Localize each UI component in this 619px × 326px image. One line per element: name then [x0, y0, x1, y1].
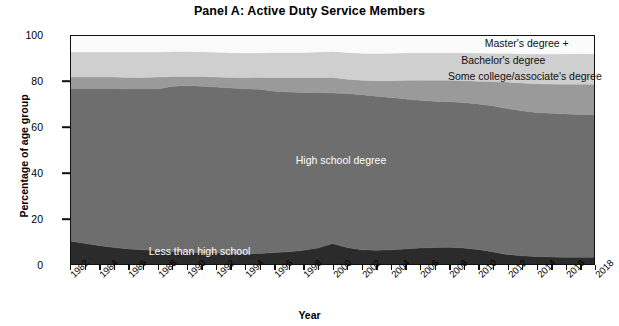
y-tick-label: 20: [31, 213, 43, 225]
chart-figure: Panel A: Active Duty Service Members Per…: [0, 0, 619, 326]
y-tick-mark: [62, 80, 70, 82]
y-axis-title: Percentage of age group: [18, 66, 30, 246]
y-tick-label: 0: [37, 259, 43, 271]
y-tick-label: 40: [31, 167, 43, 179]
y-tick-label: 80: [31, 75, 43, 87]
area-band: [71, 36, 594, 54]
y-tick-label: 60: [31, 121, 43, 133]
area-band: [71, 86, 594, 257]
y-tick-label: 100: [25, 29, 43, 41]
y-tick-mark: [62, 172, 70, 174]
chart-title: Panel A: Active Duty Service Members: [0, 4, 619, 18]
y-axis: Percentage of age group 020406080100: [0, 0, 70, 326]
x-tick-label: 2018: [593, 257, 616, 280]
y-tick-mark: [62, 126, 70, 128]
y-tick-mark: [62, 218, 70, 220]
plot-area: [70, 35, 595, 265]
stacked-area-svg: [71, 36, 594, 264]
x-axis-title: Year: [0, 309, 619, 321]
